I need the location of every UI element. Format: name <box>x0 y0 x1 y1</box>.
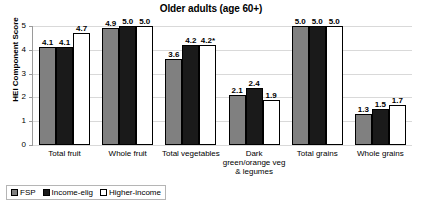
bar[interactable]: 5.0 <box>292 26 309 145</box>
bar[interactable]: 4.1 <box>56 47 73 145</box>
y-axis-title: HEI Component Score <box>11 0 20 120</box>
x-label-line: green/orange veg <box>215 158 294 167</box>
bar[interactable]: 5.0 <box>119 26 136 145</box>
y-tick-label: 2 <box>4 93 26 101</box>
bar-group-bars: 3.64.24.2* <box>159 26 222 145</box>
bar-group-bars: 5.05.05.0 <box>286 26 349 145</box>
bar-group: 4.95.05.0 <box>96 26 159 145</box>
bar[interactable]: 5.0 <box>309 26 326 145</box>
bar-value-label: 3.6 <box>168 50 179 59</box>
bar[interactable]: 5.0 <box>136 26 153 145</box>
bar[interactable]: 1.3 <box>355 114 372 145</box>
bar-value-label: 5.0 <box>122 17 133 26</box>
bar-value-label: 4.2 <box>185 36 196 45</box>
y-tick-label: 5 <box>4 22 26 30</box>
legend-item[interactable]: Income-elig <box>43 188 93 197</box>
bar-value-label: 1.5 <box>375 100 386 109</box>
bar-value-label: 5.0 <box>329 17 340 26</box>
y-tick-label: 3 <box>4 70 26 78</box>
bar-group-bars: 4.14.14.7 <box>33 26 96 145</box>
legend-swatch-icon <box>100 189 107 196</box>
x-label-line: Whole grains <box>341 149 420 158</box>
bar-value-label: 2.1 <box>232 86 243 95</box>
bar[interactable]: 1.9 <box>263 100 280 145</box>
gridline <box>33 145 412 146</box>
bar[interactable]: 4.2 <box>182 45 199 145</box>
bar[interactable]: 4.2* <box>199 45 216 145</box>
bar[interactable]: 4.7 <box>73 33 90 145</box>
bar[interactable]: 2.4 <box>246 88 263 145</box>
bar[interactable]: 2.1 <box>229 95 246 145</box>
bar-group: 3.64.24.2* <box>159 26 222 145</box>
bar-value-label: 5.0 <box>312 17 323 26</box>
bar-group: 2.12.41.9 <box>223 26 286 145</box>
bar-value-label: 4.1 <box>42 38 53 47</box>
bar-group-bars: 1.31.51.7 <box>349 26 412 145</box>
bar-value-label: 4.7 <box>76 24 87 33</box>
bar-value-label: 1.7 <box>392 96 403 105</box>
legend-item[interactable]: FSP <box>11 188 36 197</box>
bar-group: 5.05.05.0 <box>286 26 349 145</box>
legend-swatch-icon <box>11 189 18 196</box>
bar-value-label: 4.1 <box>59 38 70 47</box>
bar-value-label: 2.4 <box>249 79 260 88</box>
legend-label: FSP <box>20 188 36 197</box>
y-tick-label: 0 <box>4 141 26 149</box>
chart-container: Older adults (age 60+) HEI Component Sco… <box>0 0 422 208</box>
bar[interactable]: 1.7 <box>389 105 406 145</box>
legend-label: Higher-income <box>109 188 161 197</box>
bar[interactable]: 4.1 <box>39 47 56 145</box>
bar-group: 1.31.51.7 <box>349 26 412 145</box>
bar[interactable]: 5.0 <box>326 26 343 145</box>
y-tick-label: 1 <box>4 117 26 125</box>
bar-value-label: 1.3 <box>358 105 369 114</box>
bar[interactable]: 3.6 <box>165 59 182 145</box>
x-label-line: & legumes <box>215 167 294 176</box>
bar-group: 4.14.14.7 <box>33 26 96 145</box>
legend-swatch-icon <box>43 189 50 196</box>
bar-value-label: 1.9 <box>266 91 277 100</box>
bar[interactable]: 1.5 <box>372 109 389 145</box>
bar-group-bars: 2.12.41.9 <box>223 26 286 145</box>
y-tick-label: 4 <box>4 46 26 54</box>
chart-legend: FSPIncome-eligHigher-income <box>6 185 166 200</box>
bar-value-label: 4.9 <box>105 19 116 28</box>
x-axis-label: Whole grains <box>341 149 420 158</box>
bar-value-label: 4.2* <box>201 36 215 45</box>
plot-area: 4.14.14.74.95.05.03.64.24.2*2.12.41.95.0… <box>33 26 412 145</box>
bar-value-label: 5.0 <box>139 17 150 26</box>
bar[interactable]: 4.9 <box>102 28 119 145</box>
bar-group-bars: 4.95.05.0 <box>96 26 159 145</box>
bar-value-label: 5.0 <box>295 17 306 26</box>
chart-title: Older adults (age 60+) <box>0 3 422 14</box>
legend-label: Income-elig <box>52 188 93 197</box>
legend-item[interactable]: Higher-income <box>100 188 161 197</box>
